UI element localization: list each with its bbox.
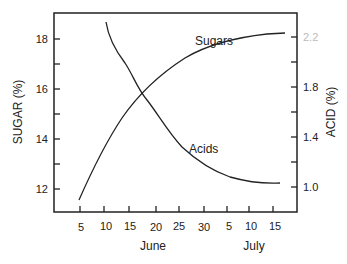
left-tick-label: 18 bbox=[36, 33, 48, 45]
sugars-series-label: Sugars bbox=[195, 34, 233, 48]
sugars-line bbox=[79, 33, 285, 200]
x-month-labels: June July bbox=[140, 239, 265, 253]
x-tick-label: 15 bbox=[269, 220, 281, 232]
left-tick-label: 12 bbox=[36, 183, 48, 195]
right-axis-ticks bbox=[291, 37, 297, 187]
month-label-july: July bbox=[243, 239, 264, 253]
x-tick-label: 5 bbox=[226, 220, 232, 232]
month-label-june: June bbox=[140, 239, 166, 253]
right-tick-label: 2.2 bbox=[303, 31, 318, 43]
left-tick-label: 16 bbox=[36, 83, 48, 95]
right-axis-labels: 1.0 1.4 1.8 2.2 bbox=[303, 31, 318, 193]
x-axis-ticks bbox=[80, 206, 273, 212]
x-tick-label: 15 bbox=[124, 220, 136, 232]
sugar-acid-chart: 12 14 16 18 SUGAR (%) 1.0 1.4 1.8 2.2 AC… bbox=[0, 0, 347, 264]
acids-line bbox=[106, 22, 280, 183]
x-tick-label: 25 bbox=[173, 220, 185, 232]
x-tick-label: 20 bbox=[150, 221, 162, 233]
acids-series-label: Acids bbox=[189, 142, 218, 156]
right-tick-label: 1.8 bbox=[303, 81, 318, 93]
x-axis-labels: 5 10 15 20 25 30 5 10 15 bbox=[78, 220, 281, 233]
left-axis-ticks bbox=[54, 39, 60, 189]
right-tick-label: 1.0 bbox=[303, 181, 318, 193]
left-axis-labels: 12 14 16 18 bbox=[36, 33, 48, 195]
x-tick-label: 10 bbox=[100, 220, 112, 232]
right-tick-label: 1.4 bbox=[303, 131, 318, 143]
x-tick-label: 30 bbox=[198, 221, 210, 233]
x-tick-label: 10 bbox=[245, 220, 257, 232]
left-axis-title: SUGAR (%) bbox=[11, 80, 25, 145]
left-tick-label: 14 bbox=[36, 133, 48, 145]
right-axis-title: ACID (%) bbox=[324, 87, 338, 138]
x-tick-label: 5 bbox=[78, 221, 84, 233]
